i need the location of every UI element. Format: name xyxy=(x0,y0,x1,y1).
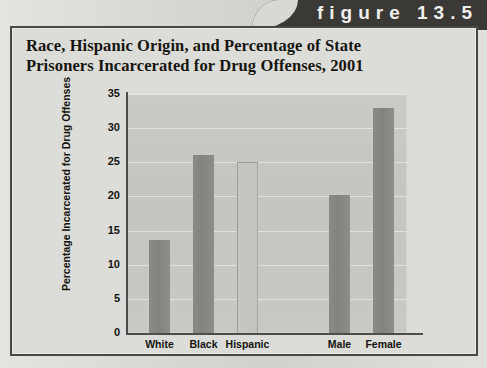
bar-black xyxy=(193,155,214,333)
bar-chart: Percentage Incarcerated for Drug Offense… xyxy=(12,28,480,358)
y-axis-line xyxy=(126,92,128,335)
y-tick-label: 30 xyxy=(94,121,120,133)
bar-hispanic xyxy=(237,162,258,333)
figure-number-label: figure 13.5 xyxy=(317,2,478,24)
gridline xyxy=(127,231,407,232)
y-tick-label: 5 xyxy=(94,292,120,304)
y-tick-label: 25 xyxy=(94,155,120,167)
bar-white xyxy=(149,240,170,333)
y-tick-label: 0 xyxy=(94,326,120,338)
figure-frame: Race, Hispanic Origin, and Percentage of… xyxy=(10,26,478,356)
gridline xyxy=(127,162,407,163)
y-tick-label: 10 xyxy=(94,258,120,270)
y-axis-title: Percentage Incarcerated for Drug Offense… xyxy=(60,75,76,293)
x-axis-line xyxy=(126,333,423,335)
gridline xyxy=(127,196,407,197)
y-axis-tick-labels: 05101520253035 xyxy=(90,28,120,358)
bar-female xyxy=(373,108,394,333)
bar-male xyxy=(329,195,350,333)
y-tick-label: 20 xyxy=(94,189,120,201)
figure-page: figure 13.5 Race, Hispanic Origin, and P… xyxy=(0,0,487,368)
y-tick-label: 35 xyxy=(94,87,120,99)
y-tick-label: 15 xyxy=(94,224,120,236)
gridline xyxy=(127,94,407,95)
gridline xyxy=(127,128,407,129)
plot-area xyxy=(127,94,407,333)
x-tick-label-hispanic: Hispanic xyxy=(208,338,288,350)
x-tick-label-female: Female xyxy=(344,338,424,350)
